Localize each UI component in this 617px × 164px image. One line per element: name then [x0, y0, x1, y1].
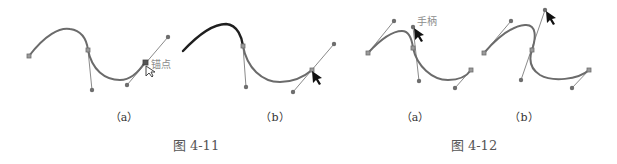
anchor-point-middle[interactable] [530, 48, 534, 52]
anchor-point-middle[interactable] [411, 46, 415, 50]
bezier-path-highlighted [183, 24, 243, 51]
anchor-point-middle[interactable] [241, 44, 245, 48]
fig-4-12-a-label: （a） [401, 108, 430, 124]
anchor-point-end[interactable] [469, 68, 473, 72]
bezier-diagram-canvas [0, 0, 617, 164]
bezier-path [29, 29, 145, 80]
bezier-path [484, 25, 589, 79]
handle-endpoint[interactable] [570, 86, 574, 90]
handle-endpoint[interactable] [332, 42, 336, 46]
bezier-path [243, 46, 312, 82]
handle-endpoint[interactable] [90, 88, 94, 92]
figure-caption-4-11: 图 4-11 [173, 135, 219, 154]
handle-endpoint[interactable] [125, 83, 129, 87]
handle-endpoint[interactable] [166, 35, 170, 39]
fig-4-11-a-label: （a） [110, 108, 139, 124]
handle-annotation: 手柄 [417, 13, 437, 28]
select-cursor-icon [414, 28, 424, 42]
anchor-point-start[interactable] [482, 51, 486, 55]
anchor-point-end[interactable] [310, 68, 314, 72]
anchor-point-selected[interactable] [143, 60, 148, 65]
fig-4-11-b-diagram [183, 24, 336, 94]
anchor-point-start[interactable] [27, 54, 31, 58]
fig-4-11-b-label: （b） [260, 108, 289, 124]
handle-endpoint[interactable] [244, 85, 248, 89]
handle-endpoint[interactable] [417, 79, 421, 83]
handle-endpoint[interactable] [291, 90, 295, 94]
anchor-point-start[interactable] [366, 51, 370, 55]
fig-4-12-b-label: （b） [509, 108, 538, 124]
fig-4-12-b-diagram [482, 8, 591, 90]
anchor-point-end[interactable] [587, 68, 591, 72]
fig-4-11-a-diagram [27, 29, 170, 92]
anchor-point-middle[interactable] [86, 48, 90, 52]
handle-endpoint[interactable] [509, 19, 513, 23]
select-cursor-icon [312, 71, 322, 85]
select-cursor-icon [546, 11, 556, 25]
anchor-point-annotation: 锚点 [151, 56, 171, 71]
figure-caption-4-12: 图 4-12 [451, 135, 497, 154]
handle-endpoint[interactable] [453, 86, 457, 90]
fig-4-12-a-diagram [366, 19, 473, 90]
handle-endpoint[interactable] [519, 78, 523, 82]
handle-endpoint[interactable] [392, 19, 396, 23]
